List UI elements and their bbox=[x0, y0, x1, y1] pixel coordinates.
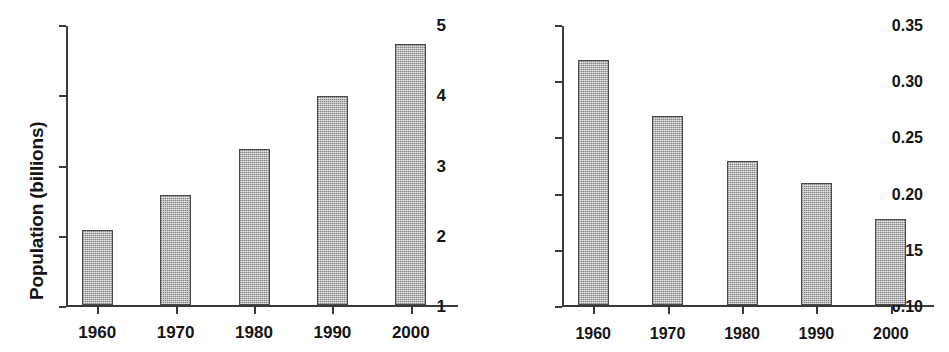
y-axis-line-population bbox=[66, 26, 68, 307]
y-axis-tick-label: 0.30 bbox=[892, 73, 923, 91]
chart-panel-population: Population (billions) 123451960197019801… bbox=[0, 0, 470, 352]
x-axis-line-arable-land bbox=[562, 305, 934, 307]
x-axis-tick bbox=[97, 307, 99, 314]
y-axis-tick bbox=[59, 166, 66, 168]
figure-two-bar-charts: Population (billions) 123451960197019801… bbox=[0, 0, 949, 352]
bar-1970 bbox=[652, 116, 683, 305]
x-axis-tick-label: 1970 bbox=[157, 323, 195, 343]
plot-area-population: 1234519601970198019902000 bbox=[66, 26, 458, 307]
x-axis-tick bbox=[176, 307, 178, 314]
x-axis-tick bbox=[816, 307, 818, 314]
y-axis-tick bbox=[555, 137, 562, 139]
x-axis-tick-label: 1990 bbox=[313, 323, 351, 343]
bar-1980 bbox=[239, 149, 270, 305]
x-axis-tick-label: 1990 bbox=[799, 325, 835, 343]
x-axis-line-population bbox=[66, 305, 458, 307]
y-axis-title-population: Population (billions) bbox=[26, 122, 48, 300]
bar-1960 bbox=[82, 230, 113, 305]
y-axis-tick bbox=[555, 194, 562, 196]
x-axis-tick-label: 1980 bbox=[235, 323, 273, 343]
y-axis-tick-label: 1 bbox=[437, 297, 446, 317]
x-axis-tick bbox=[742, 307, 744, 314]
y-axis-tick-label: 4 bbox=[437, 86, 446, 106]
x-axis-tick bbox=[891, 307, 893, 314]
bar-1960 bbox=[578, 60, 609, 305]
y-axis-tick bbox=[555, 81, 562, 83]
y-axis-tick bbox=[555, 306, 562, 308]
bar-1990 bbox=[317, 96, 348, 305]
x-axis-tick-label: 1970 bbox=[650, 325, 686, 343]
bar-2000 bbox=[395, 44, 426, 305]
x-axis-tick bbox=[254, 307, 256, 314]
bar-1990 bbox=[801, 183, 832, 305]
y-axis-tick-label: 2 bbox=[437, 227, 446, 247]
y-axis-tick bbox=[59, 306, 66, 308]
y-axis-tick-label: 0.20 bbox=[892, 186, 923, 204]
x-axis-tick-label: 2000 bbox=[392, 323, 430, 343]
y-axis-tick bbox=[555, 250, 562, 252]
y-axis-tick-label: 3 bbox=[437, 157, 446, 177]
x-axis-tick-label: 2000 bbox=[873, 325, 909, 343]
x-axis-tick-label: 1980 bbox=[724, 325, 760, 343]
bar-1970 bbox=[160, 195, 191, 305]
y-axis-tick bbox=[59, 236, 66, 238]
y-axis-tick-label: 5 bbox=[437, 16, 446, 36]
bar-1980 bbox=[727, 161, 758, 305]
x-axis-tick-label: 1960 bbox=[575, 325, 611, 343]
y-axis-tick-label: 0.35 bbox=[892, 17, 923, 35]
x-axis-tick bbox=[411, 307, 413, 314]
y-axis-tick bbox=[59, 25, 66, 27]
x-axis-tick bbox=[332, 307, 334, 314]
bar-2000 bbox=[875, 219, 906, 305]
x-axis-tick bbox=[668, 307, 670, 314]
y-axis-tick bbox=[59, 95, 66, 97]
plot-area-arable-land: 0.100.150.200.250.300.351960197019801990… bbox=[562, 26, 934, 307]
y-axis-tick bbox=[555, 25, 562, 27]
y-axis-tick-label: 0.25 bbox=[892, 129, 923, 147]
y-axis-line-arable-land bbox=[562, 26, 564, 307]
x-axis-tick bbox=[593, 307, 595, 314]
x-axis-tick-label: 1960 bbox=[78, 323, 116, 343]
